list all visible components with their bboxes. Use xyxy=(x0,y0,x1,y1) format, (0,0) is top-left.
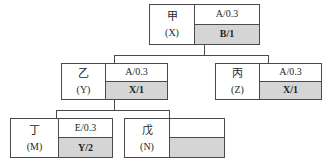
edge-jia-stem xyxy=(204,44,205,55)
node-ding-name: 丁 xyxy=(29,125,40,136)
node-yi-bottom-cell: X/1 xyxy=(106,82,167,100)
node-ding-cells: E/0.3 Y/2 xyxy=(59,119,112,157)
node-yi-top-cell: A/0.3 xyxy=(106,64,167,82)
node-bing-bottom-cell: X/1 xyxy=(260,82,321,100)
node-wu-alias: (N) xyxy=(140,142,154,152)
edge-jia-bus xyxy=(114,55,269,56)
node-ding-alias: (M) xyxy=(27,142,43,152)
node-jia-top-text: A/0.3 xyxy=(216,9,239,19)
node-wu[interactable]: 戊 (N) xyxy=(124,118,225,158)
node-jia-bottom-text: B/1 xyxy=(220,29,234,39)
node-jia-label: 甲 (X) xyxy=(150,5,195,44)
edge-yi-bus xyxy=(56,110,170,111)
node-jia-alias: (X) xyxy=(165,28,179,38)
node-ding-top-text: E/0.3 xyxy=(75,123,96,133)
node-bing[interactable]: 丙 (Z) A/0.3 X/1 xyxy=(215,63,322,100)
node-jia-top-cell: A/0.3 xyxy=(195,5,259,25)
node-wu-name: 戊 xyxy=(142,125,153,136)
node-yi-label: 乙 (Y) xyxy=(62,64,106,99)
node-yi-cells: A/0.3 X/1 xyxy=(106,64,167,99)
node-bing-top-text: A/0.3 xyxy=(279,67,302,77)
node-yi-bottom-text: X/1 xyxy=(129,85,144,95)
node-bing-bottom-text: X/1 xyxy=(283,85,298,95)
node-wu-bottom-cell xyxy=(170,138,224,157)
node-jia[interactable]: 甲 (X) A/0.3 B/1 xyxy=(149,4,260,45)
node-wu-label: 戊 (N) xyxy=(125,119,170,157)
edge-yi-stem xyxy=(114,99,115,110)
node-jia-cells: A/0.3 B/1 xyxy=(195,5,259,44)
node-ding[interactable]: 丁 (M) E/0.3 Y/2 xyxy=(10,118,113,158)
node-jia-bottom-cell: B/1 xyxy=(195,25,259,45)
node-bing-alias: (Z) xyxy=(231,85,244,95)
node-yi[interactable]: 乙 (Y) A/0.3 X/1 xyxy=(61,63,168,100)
node-wu-cells xyxy=(170,119,224,157)
node-wu-top-cell xyxy=(170,119,224,138)
node-bing-cells: A/0.3 X/1 xyxy=(260,64,321,99)
node-yi-alias: (Y) xyxy=(77,85,91,95)
node-bing-label: 丙 (Z) xyxy=(216,64,260,99)
node-ding-bottom-cell: Y/2 xyxy=(59,138,112,157)
node-ding-bottom-text: Y/2 xyxy=(78,143,93,153)
node-ding-label: 丁 (M) xyxy=(11,119,59,157)
node-bing-top-cell: A/0.3 xyxy=(260,64,321,82)
diagram-canvas: 甲 (X) A/0.3 B/1 乙 (Y) A/0.3 X/1 xyxy=(0,0,329,167)
node-yi-top-text: A/0.3 xyxy=(125,67,148,77)
node-bing-name: 丙 xyxy=(232,68,243,79)
node-ding-top-cell: E/0.3 xyxy=(59,119,112,138)
node-yi-name: 乙 xyxy=(78,68,89,79)
node-jia-name: 甲 xyxy=(167,11,178,22)
